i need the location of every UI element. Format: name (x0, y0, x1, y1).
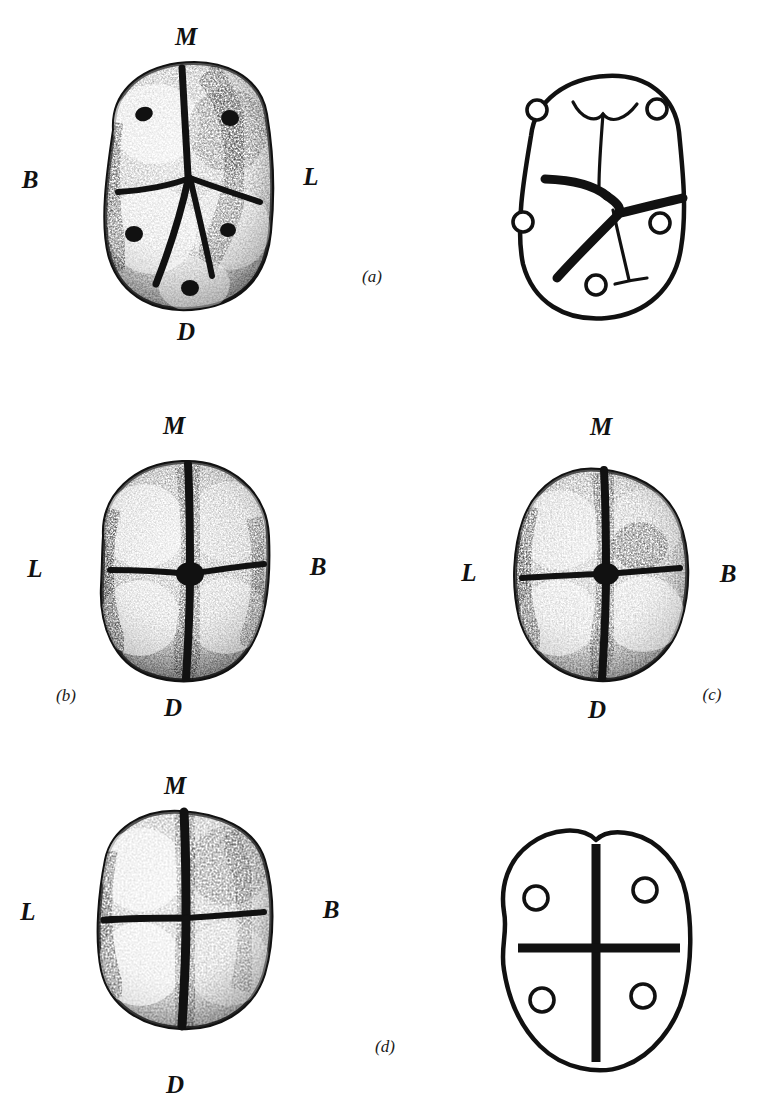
orientation-label-B: B (22, 167, 39, 192)
panel-a-schematic-diagram (495, 62, 715, 332)
figure-plate: M B L D (a) (0, 0, 771, 1114)
panel-d-tooth-drawing (78, 794, 293, 1039)
panel-label-c: (c) (703, 686, 722, 703)
orientation-label-D: D (166, 1072, 184, 1097)
orientation-label-B: B (323, 897, 340, 922)
orientation-label-M: M (175, 24, 197, 49)
orientation-label-B: B (310, 554, 327, 579)
orientation-label-D: D (177, 319, 195, 344)
orientation-label-M: M (164, 773, 186, 798)
orientation-label-L: L (303, 164, 318, 189)
orientation-label-D: D (164, 695, 182, 720)
orientation-label-M: M (590, 414, 612, 439)
orientation-label-L: L (20, 899, 35, 924)
panel-a-tooth-drawing (78, 52, 293, 317)
orientation-label-D: D (588, 697, 606, 722)
panel-label-a: (a) (362, 268, 382, 285)
panel-d-schematic-diagram (482, 820, 712, 1085)
panel-label-b: (b) (56, 687, 76, 704)
orientation-label-L: L (27, 556, 42, 581)
panel-label-d: (d) (375, 1038, 395, 1055)
panel-b-tooth-drawing (78, 448, 293, 688)
orientation-label-M: M (163, 413, 185, 438)
panel-c-tooth-drawing (492, 450, 707, 690)
orientation-label-L: L (461, 560, 476, 585)
orientation-label-B: B (720, 561, 737, 586)
